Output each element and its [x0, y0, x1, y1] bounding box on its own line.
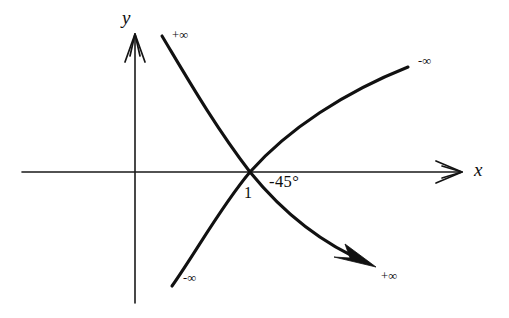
increasing-curve-end-label: -∞ — [418, 55, 431, 68]
figure-svg — [0, 0, 509, 318]
decreasing-curve-end-label: +∞ — [381, 270, 397, 283]
x-intercept-tick-label: 1 — [244, 185, 252, 201]
decreasing-curve-start-label: +∞ — [172, 29, 188, 42]
figure-canvas: x y +∞ +∞ -∞ -∞ 1 -45° — [0, 0, 509, 318]
y-axis-label: y — [122, 8, 130, 27]
angle-annotation-label: -45° — [269, 174, 299, 191]
increasing-curve-start-label: -∞ — [183, 272, 196, 285]
decreasing-log-curve — [162, 36, 368, 263]
x-axis-label: x — [474, 160, 482, 179]
decreasing-curve-arrow-icon — [334, 244, 376, 267]
